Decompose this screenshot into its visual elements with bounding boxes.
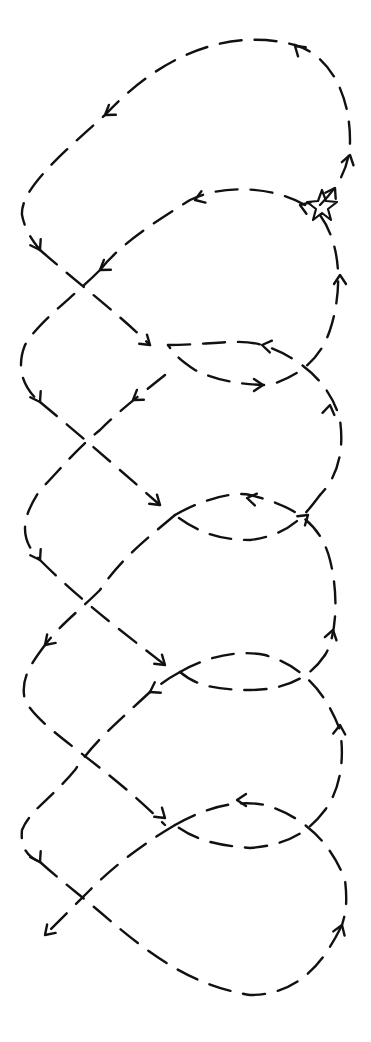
start-star-icon (307, 190, 337, 220)
arrowhead-icon (334, 275, 346, 284)
path-segment (175, 495, 320, 540)
arrowhead-icon (193, 191, 206, 205)
path-segment (45, 825, 175, 935)
path-segment (180, 653, 342, 810)
path-segment (175, 494, 335, 655)
arrowhead-icon (261, 339, 272, 352)
path-segment (168, 215, 338, 385)
arrowhead-icon (30, 549, 45, 563)
path-segment (21, 270, 100, 402)
path-segment (40, 862, 342, 995)
path-segment (168, 342, 341, 495)
arrowhead-icon (30, 851, 45, 865)
path-segment (175, 810, 325, 848)
path-segment (45, 515, 175, 645)
arrowhead-icon (333, 724, 346, 734)
path-segment (22, 692, 150, 862)
dashed-loop-diagram (0, 0, 371, 1042)
arrowhead-icon (147, 682, 161, 697)
direction-arrows (30, 41, 355, 939)
path-segment (40, 250, 150, 345)
path-segment (22, 40, 350, 250)
arrowhead-icon (154, 808, 169, 823)
path-segment (40, 560, 165, 665)
dashed-path-segments (21, 40, 350, 995)
path-segment (24, 645, 165, 825)
arrowhead-icon (237, 794, 246, 806)
path-segment (175, 803, 346, 925)
path-segment (40, 402, 160, 505)
path-segment (25, 375, 165, 560)
path-segment (180, 655, 325, 690)
